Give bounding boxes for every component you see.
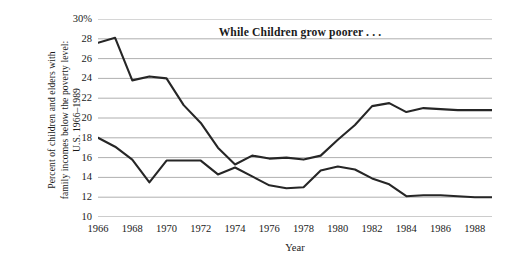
data-series-group <box>98 38 492 197</box>
x-axis-title: Year <box>98 242 492 253</box>
y-tick-label: 26 <box>52 54 92 65</box>
y-tick-label: 10 <box>52 212 92 223</box>
chart-title: While Children grow poorer . . . <box>150 26 450 39</box>
y-tick-label: 14 <box>52 172 92 183</box>
y-tick-label: 20 <box>52 113 92 124</box>
y-axis-title-container: Percent of children and elders with fami… <box>0 0 56 240</box>
series-line-children <box>98 38 492 165</box>
series-line-elders <box>98 138 492 197</box>
y-tick-label: 22 <box>52 93 92 104</box>
chart-figure: Percent of children and elders with fami… <box>0 0 516 269</box>
chart-svg <box>98 19 492 217</box>
y-tick-label: 30% <box>52 14 92 25</box>
y-tick-label: 16 <box>52 153 92 164</box>
y-tick-label: 24 <box>52 73 92 84</box>
plot-area <box>98 19 492 217</box>
x-tick-label: 1988 <box>455 224 495 235</box>
y-tick-label: 28 <box>52 34 92 45</box>
y-tick-label: 12 <box>52 192 92 203</box>
y-tick-label: 18 <box>52 133 92 144</box>
